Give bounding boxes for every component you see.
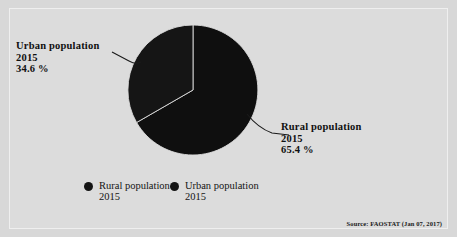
source-note: Source: FAOSTAT (Jan 07, 2017) bbox=[347, 220, 442, 228]
legend-item-urban[interactable]: Urban population 2015 bbox=[170, 180, 259, 203]
chart-legend: Rural population 2015 Urban population 2… bbox=[84, 180, 259, 203]
callout-urban-value: 34.6 % bbox=[16, 63, 99, 75]
legend-item-rural[interactable]: Rural population 2015 bbox=[84, 180, 170, 203]
filled-circle-marker-icon bbox=[170, 182, 179, 191]
legend-item-urban-label: Urban population 2015 bbox=[185, 180, 259, 203]
callout-urban-year: 2015 bbox=[16, 52, 99, 64]
legend-item-rural-label: Rural population 2015 bbox=[99, 180, 170, 203]
callout-rural-year: 2015 bbox=[281, 133, 362, 145]
filled-circle-marker-icon bbox=[84, 182, 93, 191]
callout-urban-title: Urban population bbox=[16, 40, 99, 52]
legend-rural-title: Rural population bbox=[99, 180, 170, 191]
callout-label-rural: Rural population 2015 65.4 % bbox=[281, 121, 362, 156]
legend-urban-title: Urban population bbox=[185, 180, 259, 191]
callout-rural-value: 65.4 % bbox=[281, 144, 362, 156]
callout-label-urban: Urban population 2015 34.6 % bbox=[16, 40, 99, 75]
legend-rural-year: 2015 bbox=[99, 191, 170, 202]
callout-rural-title: Rural population bbox=[281, 121, 362, 133]
legend-urban-year: 2015 bbox=[185, 191, 259, 202]
pie-chart-figure: Urban population 2015 34.6 % Rural popul… bbox=[0, 0, 457, 237]
